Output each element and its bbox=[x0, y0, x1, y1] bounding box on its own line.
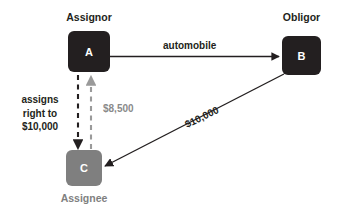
caption-assignor: Assignor bbox=[60, 11, 118, 23]
edge-label-assigns-line-1: assigns bbox=[9, 93, 71, 107]
edge-label-assigns-line-2: right to bbox=[9, 107, 71, 121]
node-c-assignee[interactable]: C bbox=[66, 150, 102, 186]
edge-label-assigns-line-3: $10,000 bbox=[9, 120, 71, 134]
edge-label-payment-8500: $8,500 bbox=[103, 103, 134, 114]
assignment-diagram: A B C Assignor Obligor Assignee automobi… bbox=[0, 0, 337, 221]
caption-obligor: Obligor bbox=[273, 11, 330, 23]
caption-assignee: Assignee bbox=[54, 192, 114, 204]
node-b-obligor[interactable]: B bbox=[282, 36, 321, 75]
node-a-assignor[interactable]: A bbox=[68, 31, 110, 72]
node-a-letter: A bbox=[85, 46, 93, 58]
edge-label-assigns-right: assigns right to $10,000 bbox=[9, 93, 71, 134]
edge-label-automobile: automobile bbox=[163, 40, 216, 51]
node-c-letter: C bbox=[80, 162, 88, 174]
node-b-letter: B bbox=[297, 50, 305, 62]
